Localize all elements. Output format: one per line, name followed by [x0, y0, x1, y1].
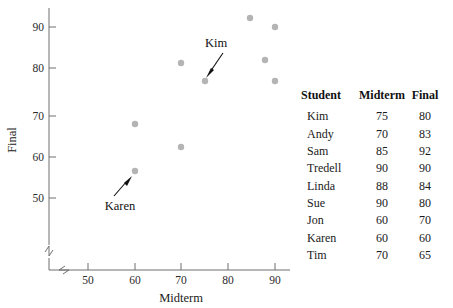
table-row: Jon 60 70	[293, 212, 445, 229]
cell-student: Andy	[293, 125, 359, 142]
y-tick-label-90: 90	[33, 21, 45, 33]
table-row: Sam 85 92	[293, 143, 445, 160]
column-header-midterm: Midterm	[359, 88, 405, 108]
x-tick-label-70: 70	[175, 274, 187, 286]
annotation-label-karen: Karen	[105, 199, 136, 213]
scores-table: Student Midterm Final Kim 75 80 Andy 70 …	[293, 88, 445, 264]
annotation-arrow-karen	[114, 176, 132, 196]
column-header-student: Student	[293, 88, 359, 108]
cell-midterm: 60	[359, 212, 405, 229]
cell-final: 92	[405, 143, 445, 160]
cell-student: Linda	[293, 178, 359, 195]
table-header-row: Student Midterm Final	[293, 88, 445, 108]
y-axis-ticks	[49, 27, 56, 198]
data-point-jon	[132, 121, 138, 127]
table-row: Sue 90 80	[293, 195, 445, 212]
cell-midterm: 90	[359, 160, 405, 177]
cell-final: 80	[405, 108, 445, 125]
data-point-tredell	[272, 24, 278, 30]
cell-student: Tredell	[293, 160, 359, 177]
table-body: Kim 75 80 Andy 70 83 Sam 85 92 Tredell 9…	[293, 108, 445, 264]
y-tick-label-60: 60	[33, 151, 45, 163]
data-point-kim	[202, 78, 208, 84]
column-header-final: Final	[405, 88, 445, 108]
x-tick-label-80: 80	[222, 274, 234, 286]
x-axis-title: Midterm	[159, 291, 203, 305]
x-axis-break-icon	[59, 266, 69, 274]
cell-midterm: 60	[359, 230, 405, 247]
cell-student: Sue	[293, 195, 359, 212]
y-axis-title: Final	[5, 127, 19, 153]
x-tick-label-60: 60	[129, 274, 141, 286]
cell-final: 90	[405, 160, 445, 177]
x-tick-label-50: 50	[82, 274, 94, 286]
table-row: Tredell 90 90	[293, 160, 445, 177]
cell-student: Kim	[293, 108, 359, 125]
table-row: Linda 88 84	[293, 178, 445, 195]
data-point-tim	[178, 144, 184, 150]
cell-final: 80	[405, 195, 445, 212]
data-point-andy	[178, 60, 184, 66]
table-row: Andy 70 83	[293, 125, 445, 142]
annotation-label-kim: Kim	[205, 36, 228, 50]
cell-student: Tim	[293, 247, 359, 264]
cell-midterm: 88	[359, 178, 405, 195]
x-axis-ticks	[88, 263, 275, 270]
cell-student: Sam	[293, 143, 359, 160]
cell-final: 70	[405, 212, 445, 229]
data-point-sam	[247, 15, 253, 21]
cell-midterm: 75	[359, 108, 405, 125]
y-tick-label-50: 50	[33, 192, 45, 204]
cell-final: 60	[405, 230, 445, 247]
table-row: Karen 60 60	[293, 230, 445, 247]
data-point-sue	[272, 78, 278, 84]
cell-final: 83	[405, 125, 445, 142]
cell-midterm: 70	[359, 247, 405, 264]
student-scores-table: Student Midterm Final Kim 75 80 Andy 70 …	[293, 88, 445, 264]
annotation-arrow-kim	[206, 53, 223, 78]
cell-midterm: 90	[359, 195, 405, 212]
cell-midterm: 70	[359, 125, 405, 142]
cell-student: Jon	[293, 212, 359, 229]
data-point-linda	[262, 57, 268, 63]
table-row: Kim 75 80	[293, 108, 445, 125]
cell-student: Karen	[293, 230, 359, 247]
cell-midterm: 85	[359, 143, 405, 160]
y-axis-break-icon	[45, 246, 53, 256]
cell-final: 84	[405, 178, 445, 195]
y-tick-label-70: 70	[33, 110, 45, 122]
table-row: Tim 70 65	[293, 247, 445, 264]
y-tick-label-80: 80	[33, 62, 45, 74]
data-point-karen	[132, 168, 138, 174]
x-tick-label-90: 90	[269, 274, 281, 286]
scatter-plot-figure: 90 80 70 60 50 50 60 70 80 90 Midterm Fi…	[0, 0, 453, 308]
cell-final: 65	[405, 247, 445, 264]
